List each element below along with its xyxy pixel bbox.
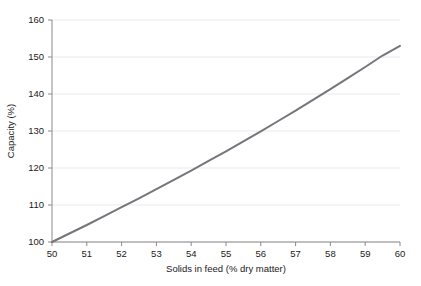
y-tick-label-130: 130 <box>28 125 44 136</box>
y-tick-label-120: 120 <box>28 162 44 173</box>
x-axis-title: Solids in feed (% dry matter) <box>166 263 286 274</box>
x-tick-label-51: 51 <box>82 248 93 259</box>
y-tick-label-160: 160 <box>28 14 44 25</box>
x-tick-label-59: 59 <box>360 248 371 259</box>
y-tick-label-140: 140 <box>28 88 44 99</box>
x-tick-label-54: 54 <box>186 248 197 259</box>
x-tick-label-60: 60 <box>395 248 406 259</box>
x-tick-label-52: 52 <box>116 248 127 259</box>
chart-background <box>0 0 421 286</box>
y-tick-label-110: 110 <box>29 199 44 210</box>
x-tick-label-53: 53 <box>151 248 162 259</box>
x-tick-label-56: 56 <box>256 248 267 259</box>
x-tick-label-55: 55 <box>221 248 232 259</box>
chart-figure: 5051525354555657585960 10011012013014015… <box>0 0 421 286</box>
y-tick-label-100: 100 <box>28 236 44 247</box>
x-tick-label-50: 50 <box>47 248 58 259</box>
x-tick-label-58: 58 <box>325 248 336 259</box>
line-chart: 5051525354555657585960 10011012013014015… <box>0 0 421 286</box>
y-axis-title: Capacity (%) <box>5 104 16 158</box>
x-tick-label-57: 57 <box>290 248 301 259</box>
y-tick-label-150: 150 <box>28 51 44 62</box>
